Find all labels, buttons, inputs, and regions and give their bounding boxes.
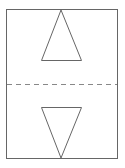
top-triangle-shape: [42, 10, 82, 61]
bottom-triangle-shape: [42, 108, 82, 159]
mirror-fold-diagram: [0, 0, 125, 168]
